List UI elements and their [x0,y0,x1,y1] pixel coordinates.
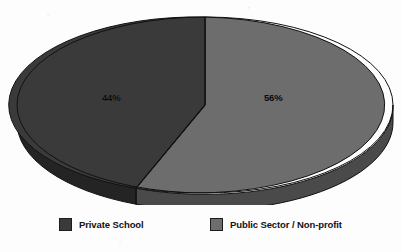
legend-label-public-sector-non-profit: Public Sector / Non-profit [230,219,342,230]
legend-item-private-school[interactable]: Private School [59,218,144,231]
pie-chart-figure: 44% 56% Private School Public Sector / N… [0,0,401,252]
chart-plot-area: 44% 56% [0,0,401,205]
legend-label-private-school: Private School [79,219,144,230]
pie-data-label-public-sector: 56% [264,92,282,103]
pie-chart-svg [0,0,401,205]
chart-legend: Private School Public Sector / Non-profi… [0,213,401,243]
legend-swatch-public-sector-non-profit [210,218,223,231]
legend-item-public-sector-non-profit[interactable]: Public Sector / Non-profit [210,218,342,231]
pie-data-label-private-school: 44% [102,92,120,103]
legend-swatch-private-school [59,218,72,231]
